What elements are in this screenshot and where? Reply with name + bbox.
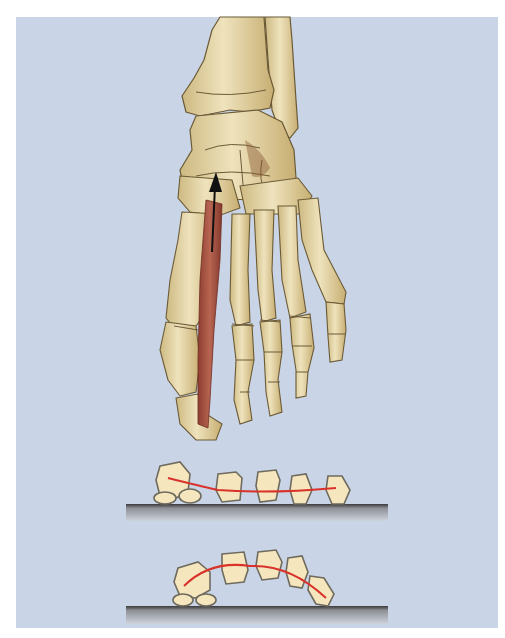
- metatarsal-bones: [160, 198, 346, 440]
- ground-surface: [126, 606, 388, 624]
- arch-bones: [173, 550, 334, 606]
- flattened-arch-diagram: [126, 462, 388, 521]
- raised-arch-diagram: [126, 550, 388, 624]
- arch-bones: [154, 462, 350, 504]
- foot-illustration: [0, 0, 505, 638]
- tibia-bone: [182, 17, 274, 116]
- ground-surface: [126, 504, 388, 521]
